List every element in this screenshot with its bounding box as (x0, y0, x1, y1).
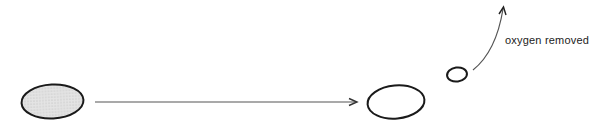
diagram-canvas (0, 0, 612, 129)
reaction-arrow (95, 99, 357, 106)
oxygen-removed-arrow (473, 7, 506, 70)
end-molecule-ellipse (366, 83, 426, 121)
start-molecule-ellipse (21, 83, 85, 120)
oxygen-ellipse (446, 66, 468, 83)
oxygen-removed-label: oxygen removed (505, 34, 589, 46)
